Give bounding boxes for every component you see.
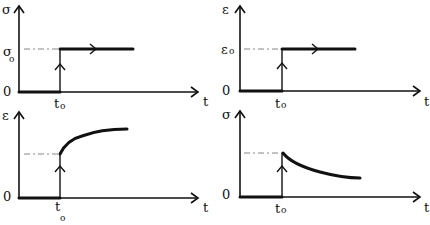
y-axis-label: ε <box>222 2 229 17</box>
x-axis-label: t <box>203 200 209 215</box>
time-subscript: o <box>281 100 286 110</box>
y-axis-label: σ <box>222 107 231 122</box>
creep-curve <box>60 129 127 154</box>
panel-relaxation-response: σ t 0 t o <box>222 107 430 216</box>
y-axis-label: ε <box>2 108 9 123</box>
time-subscript: o <box>281 205 286 215</box>
y-axis-label: σ <box>2 2 11 17</box>
time-subscript: o <box>60 213 65 223</box>
level-subscript: o <box>9 54 14 64</box>
panel-strain-input: ε t 0 ε o t o <box>221 2 430 111</box>
level-subscript: o <box>229 46 234 56</box>
x-axis-label: t <box>203 94 209 109</box>
origin-label: 0 <box>222 187 230 202</box>
x-axis-label: t <box>424 94 430 109</box>
time-label: t <box>55 199 61 214</box>
time-subscript: o <box>60 101 65 111</box>
origin-label: 0 <box>3 84 11 99</box>
panel-creep-response: ε t 0 t o <box>2 108 209 223</box>
x-axis-label: t <box>424 200 430 215</box>
panel-stress-input: σ t 0 σ o t o <box>2 2 209 111</box>
creep-relaxation-diagram: σ t 0 σ o t o ε t 0 ε o t o <box>0 0 430 225</box>
origin-label: 0 <box>3 189 11 204</box>
relaxation-curve <box>283 153 360 178</box>
level-label: ε <box>221 42 228 57</box>
origin-label: 0 <box>222 83 230 98</box>
